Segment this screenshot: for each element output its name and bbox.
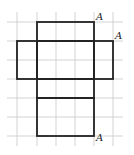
vertex-label-a: A: [114, 30, 122, 41]
vertex-label-a: A: [95, 132, 103, 143]
box-net-diagram: AAA: [0, 0, 134, 155]
vertex-labels: AAA: [95, 11, 122, 143]
net-faces: [17, 22, 113, 136]
bottom-face: [37, 79, 94, 98]
top-face: [37, 22, 94, 41]
diagram-canvas: AAA: [0, 0, 134, 155]
vertex-label-a: A: [95, 11, 103, 22]
